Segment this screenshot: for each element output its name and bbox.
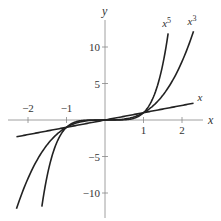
curve-label-x3: x3 — [187, 14, 197, 27]
x-tick-label: −1 — [61, 102, 73, 114]
y-tick-label: −10 — [83, 187, 101, 199]
y-tick-label: −5 — [88, 151, 100, 163]
function-plot: −2−112 105−5−10 x y xx3x5 — [0, 0, 221, 221]
curve-label-x: x — [197, 91, 203, 103]
y-axis-label: y — [101, 4, 108, 18]
x-axis-label: x — [207, 113, 214, 127]
curve-label-x5: x5 — [161, 16, 171, 29]
x-tick-label: 2 — [179, 124, 185, 136]
axes — [8, 20, 203, 218]
x-tick-label: 1 — [141, 124, 147, 136]
y-tick-label: 10 — [89, 41, 101, 53]
y-tick-label: 5 — [95, 78, 101, 90]
x-tick-label: −2 — [22, 102, 34, 114]
